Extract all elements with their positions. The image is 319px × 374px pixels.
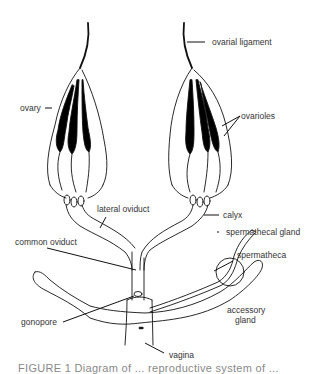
label-gonopore: gonopore bbox=[21, 318, 57, 327]
label-accessory-gland-1: accessory bbox=[227, 306, 265, 315]
left-ovary bbox=[48, 23, 107, 207]
label-vagina: vagina bbox=[169, 351, 194, 360]
label-lateral-oviduct: lateral oviduct bbox=[97, 205, 149, 214]
label-ovarial-ligament: ovarial ligament bbox=[212, 38, 272, 47]
right-ovary bbox=[169, 23, 232, 207]
label-common-oviduct: common oviduct bbox=[15, 238, 77, 247]
spermatheca bbox=[150, 230, 256, 312]
oviducts bbox=[66, 205, 208, 300]
label-ovary: ovary bbox=[20, 104, 41, 113]
label-spermathecal-gland: spermathecal gland bbox=[226, 228, 300, 237]
label-spermatheca: spermatheca bbox=[237, 251, 286, 260]
vagina bbox=[125, 297, 153, 345]
gonopore bbox=[134, 292, 142, 297]
label-accessory-gland-2: gland bbox=[235, 316, 256, 325]
figure-caption: FIGURE 1 Diagram of ... reproductive sys… bbox=[18, 362, 279, 374]
label-calyx: calyx bbox=[223, 211, 242, 220]
label-ovarioles: ovarioles bbox=[241, 112, 275, 121]
